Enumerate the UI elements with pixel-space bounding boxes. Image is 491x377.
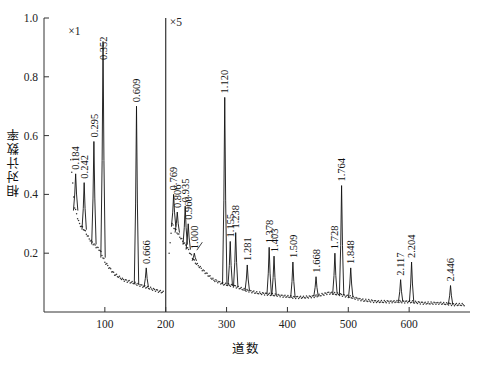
spectrum-peak: [73, 174, 77, 211]
spectrum-peak: [267, 247, 271, 294]
peak-energy-label: 1.509: [288, 234, 299, 258]
scale-factor-right: ×5: [170, 16, 182, 28]
peak-energy-label: 1.728: [329, 226, 340, 250]
peak-energy-label: 0.242: [79, 155, 90, 179]
spectrum-chart-figure: 0.20.40.60.81.01002003004005006000.1840.…: [0, 0, 491, 377]
spectrum-peak: [134, 106, 138, 284]
spectrum-peak: [144, 268, 148, 287]
peak-energy-label: 0.352: [98, 36, 109, 60]
y-tick-label: 0.8: [24, 71, 39, 83]
peak-energy-label: 1.120: [219, 70, 230, 94]
x-axis-ticks: 100200300400500600: [96, 307, 418, 330]
spectrum-peak: [234, 233, 238, 287]
spectrum-peak: [448, 286, 452, 305]
spectrum-peak: [409, 262, 413, 302]
x-tick-label: 200: [157, 318, 175, 330]
y-axis-title: 相对计数率: [4, 127, 23, 197]
scale-factor-left: ×1: [68, 25, 80, 37]
spectrum-peak: [333, 253, 337, 294]
x-tick-label: 500: [340, 318, 358, 330]
peak-energy-label: 0.960: [183, 196, 194, 220]
peak-energy-label: 2.117: [395, 252, 406, 275]
x-tick-label: 600: [401, 318, 419, 330]
peak-energy-label: 1.764: [336, 157, 347, 181]
spectrum-peak: [223, 97, 227, 284]
peak-labels: 0.1840.2420.2950.3520.6090.6660.7690.806…: [70, 36, 456, 281]
spectrum-peak: [398, 280, 402, 302]
y-tick-label: 1.0: [24, 12, 39, 24]
spectrum-peak: [291, 262, 295, 297]
y-tick-label: 0.6: [24, 130, 39, 142]
x-tick-label: 400: [279, 318, 297, 330]
spectrum-peak: [314, 277, 318, 296]
peak-energy-label: 2.204: [406, 234, 417, 258]
peak-energy-label: 0.295: [89, 114, 100, 138]
y-tick-label: 0.4: [24, 188, 39, 200]
peak-energy-label: 0.666: [141, 240, 152, 264]
peak-energy-label: 0.609: [131, 79, 142, 103]
peak-energy-label: 1.848: [345, 240, 356, 264]
peak-energy-label: 2.446: [445, 258, 456, 282]
peak-energy-label: 1.403: [269, 229, 280, 253]
x-tick-label: 100: [96, 318, 114, 330]
spectrum-peak: [82, 183, 86, 230]
peak-energy-label: 1.668: [311, 249, 322, 273]
x-tick-label: 300: [218, 318, 236, 330]
spectrum-peak: [272, 256, 276, 295]
peak-energy-label: 1.281: [242, 237, 253, 261]
spectrum-peak: [349, 268, 353, 297]
spectrum-plot-svg: 0.20.40.60.81.01002003004005006000.1840.…: [0, 0, 491, 377]
plot-area: 0.20.40.60.81.01002003004005006000.1840.…: [0, 0, 491, 377]
x-axis-title: 道数: [232, 338, 260, 357]
spectrum-peak: [245, 265, 249, 291]
y-axis-ticks: 0.20.40.60.81.0: [24, 12, 49, 259]
spectrum-peak: [92, 141, 96, 244]
spectrum-peak: [228, 241, 232, 285]
spectrum-peak: [101, 42, 105, 258]
y-tick-label: 0.2: [24, 247, 39, 259]
peak-energy-label: 1.000: [189, 226, 200, 250]
peak-energy-label: 1.238: [230, 205, 241, 229]
